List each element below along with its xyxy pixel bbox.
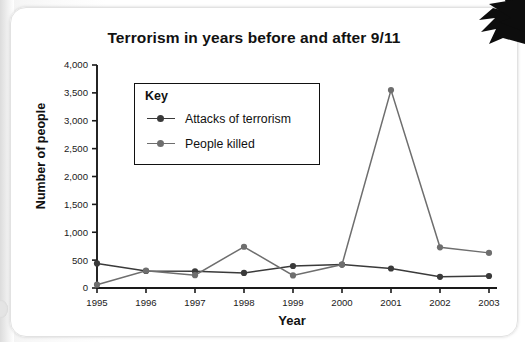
svg-text:0: 0 xyxy=(83,282,88,293)
legend-label-series-0: Attacks of terrorism xyxy=(177,112,291,126)
data-point-1-7 xyxy=(437,244,443,250)
x-axis-ticks: 199519961997199819992000200120022003 xyxy=(86,288,499,308)
data-point-1-0 xyxy=(94,282,100,288)
svg-text:2001: 2001 xyxy=(380,297,401,308)
svg-text:1998: 1998 xyxy=(233,297,254,308)
data-point-1-6 xyxy=(388,87,394,93)
svg-text:1,500: 1,500 xyxy=(64,199,88,210)
svg-text:500: 500 xyxy=(72,255,88,266)
data-point-0-0 xyxy=(94,260,100,266)
svg-text:1996: 1996 xyxy=(135,297,156,308)
legend-label-series-1: People killed xyxy=(177,137,255,151)
svg-text:2,500: 2,500 xyxy=(64,143,88,154)
svg-text:2000: 2000 xyxy=(331,297,352,308)
svg-text:1997: 1997 xyxy=(184,297,205,308)
data-point-0-6 xyxy=(388,265,394,271)
svg-text:3,500: 3,500 xyxy=(64,87,88,98)
svg-text:1999: 1999 xyxy=(282,297,303,308)
data-point-1-8 xyxy=(486,250,492,256)
data-point-1-5 xyxy=(339,261,345,267)
legend-marker-icon-series-0 xyxy=(145,113,177,125)
y-axis-ticks: 05001,0001,5002,0002,5003,0003,5004,000 xyxy=(64,59,97,293)
screenshot-scene: Terrorism in years before and after 9/11… xyxy=(0,0,525,342)
svg-text:2,000: 2,000 xyxy=(64,171,88,182)
legend-item-people-killed: People killed xyxy=(145,131,319,156)
legend-item-attacks-of-terrorism: Attacks of terrorism xyxy=(145,106,319,131)
svg-text:4,000: 4,000 xyxy=(64,59,88,70)
data-point-0-7 xyxy=(437,274,443,280)
legend-marker-icon-series-1 xyxy=(145,138,177,150)
data-point-1-1 xyxy=(143,268,149,274)
data-point-0-8 xyxy=(486,273,492,279)
chart-figure: Terrorism in years before and after 9/11… xyxy=(10,7,518,337)
data-point-1-2 xyxy=(192,272,198,278)
chart-legend: Key Attacks of terrorism People killed xyxy=(134,83,320,165)
arrow-pointer-icon xyxy=(459,0,525,44)
svg-text:2002: 2002 xyxy=(429,297,450,308)
data-point-1-3 xyxy=(241,244,247,250)
data-point-0-4 xyxy=(290,263,296,269)
legend-title: Key xyxy=(145,89,319,103)
data-point-0-3 xyxy=(241,270,247,276)
svg-text:3,000: 3,000 xyxy=(64,115,88,126)
svg-text:1,000: 1,000 xyxy=(64,227,88,238)
data-point-1-4 xyxy=(290,272,296,278)
plot-area: 05001,0001,5002,0002,5003,0003,5004,000 … xyxy=(10,7,518,337)
svg-text:2003: 2003 xyxy=(478,297,499,308)
svg-text:1995: 1995 xyxy=(86,297,107,308)
